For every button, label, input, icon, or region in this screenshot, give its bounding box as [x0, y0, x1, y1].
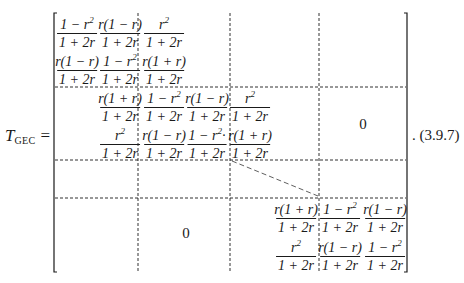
- fraction-denominator: 1 + 2r: [187, 107, 227, 124]
- fraction-denominator: 1 + 2r: [144, 70, 184, 87]
- fraction-denominator: 1 + 2r: [365, 256, 405, 273]
- fraction-denominator: 1 + 2r: [100, 144, 140, 161]
- left-bracket: [54, 13, 57, 272]
- fraction-denominator: 1 + 2r: [100, 107, 140, 124]
- fraction-numerator: r(1 + r): [226, 128, 274, 144]
- fraction-denominator: 1 + 2r: [276, 256, 316, 273]
- matrix-entry: 1 − r21 + 2r: [144, 91, 184, 124]
- matrix-entry: r21 + 2r: [100, 128, 140, 161]
- fraction-denominator: 1 + 2r: [57, 70, 97, 87]
- fraction-denominator: 1 + 2r: [276, 218, 316, 235]
- matrix-entry: r(1 − r)1 + 2r: [140, 128, 188, 161]
- fraction-numerator: r(1 − r): [53, 54, 101, 70]
- matrix-entry: 1 − r21 + 2r: [100, 54, 140, 87]
- zero-block-lower-left: 0: [182, 225, 190, 242]
- fraction-numerator: r(1 − r): [183, 91, 231, 107]
- fraction-denominator: 1 + 2r: [365, 218, 405, 235]
- matrix-entry: 1 − r21 + 2r: [365, 240, 405, 273]
- fraction-denominator: 1 + 2r: [144, 107, 184, 124]
- fraction-numerator: r2: [113, 128, 127, 144]
- matrix-entry: r(1 − r)1 + 2r: [96, 17, 144, 50]
- matrix-entry: r(1 − r)1 + 2r: [361, 202, 409, 235]
- fraction-denominator: 1 + 2r: [100, 33, 140, 50]
- fraction-numerator: r(1 + r): [272, 202, 320, 218]
- fraction-numerator: r(1 − r): [96, 17, 144, 33]
- fraction-denominator: 1 + 2r: [320, 256, 360, 273]
- fraction-denominator: 1 + 2r: [187, 144, 227, 161]
- matrix-entry: r(1 + r)1 + 2r: [226, 128, 274, 161]
- equation-number: . (3.9.7): [412, 127, 460, 144]
- matrix-entry: r(1 − r)1 + 2r: [316, 240, 364, 273]
- fraction-numerator: r2: [289, 240, 303, 256]
- fraction-numerator: r(1 − r): [361, 202, 409, 218]
- fraction-numerator: r(1 + r): [140, 54, 188, 70]
- fraction-numerator: r(1 − r): [140, 128, 188, 144]
- fraction-numerator: r2: [157, 17, 171, 33]
- fraction-numerator: 1 − r2: [366, 240, 403, 256]
- matrix-entry: r21 + 2r: [144, 17, 184, 50]
- fraction-denominator: 1 + 2r: [230, 107, 270, 124]
- matrix-entry: r21 + 2r: [230, 91, 270, 124]
- fraction-denominator: 1 + 2r: [144, 144, 184, 161]
- zero-block-upper-right: 0: [359, 116, 367, 133]
- fraction-numerator: 1 − r2: [145, 91, 182, 107]
- fraction-numerator: r(1 − r): [316, 240, 364, 256]
- fraction-denominator: 1 + 2r: [100, 70, 140, 87]
- fraction-numerator: 1 − r2: [58, 17, 95, 33]
- fraction-numerator: 1 − r2: [321, 202, 358, 218]
- matrix-entry: r(1 − r)1 + 2r: [53, 54, 101, 87]
- fraction-denominator: 1 + 2r: [57, 33, 97, 50]
- fraction-denominator: 1 + 2r: [144, 33, 184, 50]
- matrix-entry: 1 − r21 + 2r: [57, 17, 97, 50]
- fraction-numerator: r(1 + r): [96, 91, 144, 107]
- diagonal-ellipsis-line: [232, 161, 318, 196]
- matrix-entry: r(1 − r)1 + 2r: [183, 91, 231, 124]
- matrix-entry: r21 + 2r: [276, 240, 316, 273]
- matrix-entry: r(1 + r)1 + 2r: [140, 54, 188, 87]
- fraction-denominator: 1 + 2r: [230, 144, 270, 161]
- matrix-entry: 1 − r2·1 + 2r: [187, 128, 228, 161]
- fraction-numerator: r2: [243, 91, 257, 107]
- fraction-numerator: 1 − r2·: [187, 128, 228, 144]
- fraction-denominator: 1 + 2r: [320, 218, 360, 235]
- matrix-entry: 1 − r21 + 2r: [320, 202, 360, 235]
- fraction-numerator: 1 − r2: [101, 54, 138, 70]
- matrix-entry: r(1 + r)1 + 2r: [96, 91, 144, 124]
- matrix-entry: r(1 + r)1 + 2r: [272, 202, 320, 235]
